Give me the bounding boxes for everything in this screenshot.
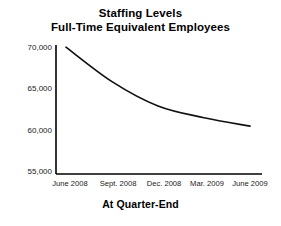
y-tick-label-70000: 70,000 [14,43,52,52]
y-tick-label-55000: 55,000 [14,167,52,176]
x-axis-title: At Quarter-End [0,198,281,210]
x-tick-label-june-2009: June 2009 [219,179,281,189]
data-series-line [66,47,250,126]
chart-page: Staffing Levels Full-Time Equivalent Emp… [0,0,281,226]
x-axis-tick-labels: June 2008 Sept. 2008 Dec. 2008 Mar. 2009… [0,179,281,193]
y-tick-label-65000: 65,000 [14,84,52,93]
y-tick-label-60000: 60,000 [14,126,52,135]
